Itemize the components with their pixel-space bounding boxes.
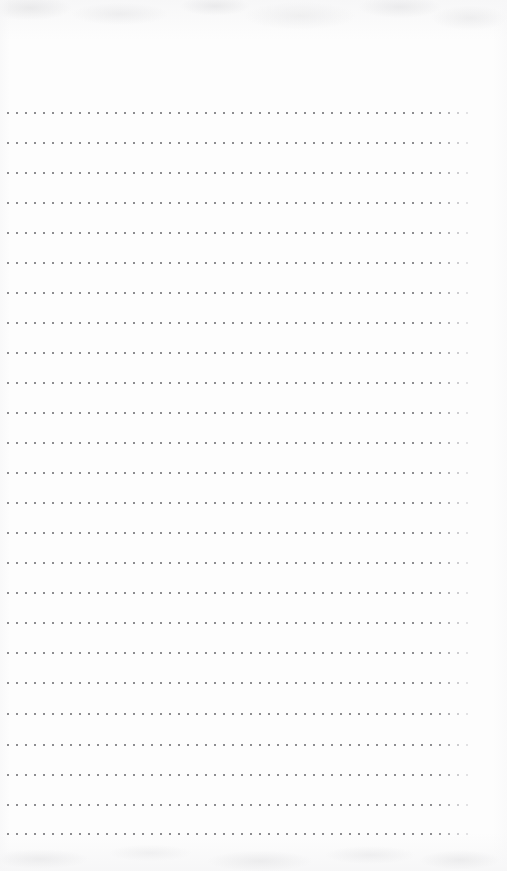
rule-dot-gap bbox=[351, 833, 358, 835]
rule-dot-gap bbox=[9, 412, 16, 414]
rule-dot bbox=[466, 202, 468, 204]
rule-dot-gap bbox=[243, 112, 250, 114]
rule-dot-gap bbox=[198, 172, 205, 174]
rule-dot-gap bbox=[450, 804, 457, 806]
rule-dot-gap bbox=[162, 292, 169, 294]
rule-dot-gap bbox=[414, 352, 421, 354]
rule-dot-gap bbox=[63, 322, 70, 324]
rule-dot-gap bbox=[270, 232, 277, 234]
rule-dot-gap bbox=[360, 713, 367, 715]
rule-dot-gap bbox=[45, 774, 52, 776]
rule-dot-gap bbox=[234, 412, 241, 414]
rule-dot-gap bbox=[153, 292, 160, 294]
rule-dot-gap bbox=[153, 142, 160, 144]
rule-dot-gap bbox=[342, 412, 349, 414]
rule-dot-gap bbox=[18, 502, 25, 504]
rule-dot-gap bbox=[270, 682, 277, 684]
rule-dot-gap bbox=[252, 804, 259, 806]
rule-dot-gap bbox=[99, 202, 106, 204]
rule-dot-gap bbox=[297, 142, 304, 144]
rule-dot-gap bbox=[36, 382, 43, 384]
rule-dot-gap bbox=[198, 292, 205, 294]
rule-dot-gap bbox=[216, 142, 223, 144]
rule-dot-gap bbox=[171, 172, 178, 174]
rule-dot-gap bbox=[351, 292, 358, 294]
rule-dot-gap bbox=[243, 774, 250, 776]
rule-dot-gap bbox=[378, 322, 385, 324]
rule-dot-gap bbox=[441, 442, 448, 444]
rule-dot-gap bbox=[18, 652, 25, 654]
rule-dot-gap bbox=[441, 652, 448, 654]
rule-dot-gap bbox=[63, 232, 70, 234]
dotted-rule-line bbox=[7, 472, 468, 475]
rule-dot-gap bbox=[171, 442, 178, 444]
rule-dot-gap bbox=[351, 652, 358, 654]
rule-dot-gap bbox=[441, 682, 448, 684]
rule-dot-gap bbox=[225, 682, 232, 684]
rule-dot-gap bbox=[72, 232, 79, 234]
rule-dot-gap bbox=[117, 592, 124, 594]
rule-dot-gap bbox=[351, 592, 358, 594]
rule-dot-gap bbox=[153, 682, 160, 684]
rule-dot-gap bbox=[387, 232, 394, 234]
rule-dot-gap bbox=[288, 382, 295, 384]
rule-dot-gap bbox=[252, 112, 259, 114]
rule-dot-gap bbox=[342, 472, 349, 474]
rule-dot-gap bbox=[54, 232, 61, 234]
rule-dot-gap bbox=[270, 774, 277, 776]
rule-dot-gap bbox=[54, 744, 61, 746]
rule-dot-gap bbox=[414, 774, 421, 776]
rule-dot-gap bbox=[423, 682, 430, 684]
rule-dot-gap bbox=[279, 322, 286, 324]
rule-dot-gap bbox=[207, 532, 214, 534]
rule-dot-gap bbox=[252, 744, 259, 746]
rule-dot-gap bbox=[54, 382, 61, 384]
rule-dot-gap bbox=[63, 592, 70, 594]
rule-dot-gap bbox=[423, 774, 430, 776]
rule-dot-gap bbox=[324, 382, 331, 384]
rule-dot-gap bbox=[162, 202, 169, 204]
rule-dot-gap bbox=[225, 532, 232, 534]
rule-dot-gap bbox=[297, 412, 304, 414]
rule-dot-gap bbox=[315, 382, 322, 384]
rule-dot-gap bbox=[342, 442, 349, 444]
rule-dot-gap bbox=[126, 382, 133, 384]
rule-dot-gap bbox=[414, 232, 421, 234]
rule-dot-gap bbox=[36, 744, 43, 746]
rule-dot-gap bbox=[36, 652, 43, 654]
rule-dot-gap bbox=[36, 472, 43, 474]
rule-dot-gap bbox=[162, 592, 169, 594]
rule-dot bbox=[466, 562, 468, 564]
rule-dot-gap bbox=[450, 622, 457, 624]
rule-dot-gap bbox=[45, 322, 52, 324]
rule-dot-gap bbox=[441, 532, 448, 534]
rule-dot-gap bbox=[171, 142, 178, 144]
rule-dot-gap bbox=[387, 502, 394, 504]
rule-dot-gap bbox=[90, 172, 97, 174]
rule-dot-gap bbox=[270, 352, 277, 354]
dotted-rule-line bbox=[7, 352, 468, 355]
rule-dot-gap bbox=[117, 713, 124, 715]
rule-dot-gap bbox=[90, 804, 97, 806]
rule-dot-gap bbox=[270, 804, 277, 806]
rule-dot-gap bbox=[234, 142, 241, 144]
rule-dot-gap bbox=[81, 592, 88, 594]
rule-dot-gap bbox=[81, 744, 88, 746]
rule-dot-gap bbox=[396, 382, 403, 384]
rule-dot-gap bbox=[423, 412, 430, 414]
rule-dot-gap bbox=[18, 382, 25, 384]
rule-dot-gap bbox=[90, 744, 97, 746]
rule-dot-gap bbox=[144, 562, 151, 564]
rule-dot-gap bbox=[108, 502, 115, 504]
rule-dot-gap bbox=[387, 562, 394, 564]
rule-dot-gap bbox=[342, 292, 349, 294]
rule-dot-gap bbox=[243, 412, 250, 414]
rule-dot-gap bbox=[459, 382, 466, 384]
rule-dot-gap bbox=[324, 442, 331, 444]
rule-dot-gap bbox=[207, 202, 214, 204]
rule-dot-gap bbox=[315, 352, 322, 354]
rule-dot-gap bbox=[441, 502, 448, 504]
rule-dot-gap bbox=[387, 713, 394, 715]
rule-dot-gap bbox=[135, 682, 142, 684]
rule-dot-gap bbox=[153, 804, 160, 806]
